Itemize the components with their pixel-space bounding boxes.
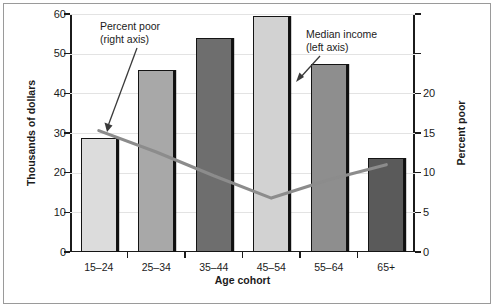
x-axis-tick-label: 65+ (358, 262, 416, 273)
y-axis-right-tick (415, 172, 421, 173)
y-axis-right-tick (415, 132, 421, 133)
x-axis-tick-label: 15–24 (70, 262, 128, 273)
gridline (70, 14, 415, 15)
x-axis-tick-label: 55–64 (300, 262, 358, 273)
x-axis-tick (357, 252, 358, 258)
y-axis-right-tick-label: 0 (423, 247, 463, 258)
x-axis-tick (299, 252, 300, 258)
y-axis-left-tick-label: 40 (26, 88, 66, 99)
x-axis-tick-label: 45–54 (243, 262, 301, 273)
y-axis-right-tick (415, 93, 421, 94)
gridline (70, 93, 415, 94)
y-axis-right-tick (415, 13, 421, 14)
bar (368, 158, 404, 252)
x-axis-tick (127, 252, 128, 258)
y-axis-left-tick-label: 10 (26, 207, 66, 218)
x-axis-title: Age cohort (70, 274, 415, 286)
annotation-median-income: Median income (left axis) (306, 28, 377, 53)
bar (311, 64, 347, 252)
x-axis-tick-label: 35–44 (185, 262, 243, 273)
y-axis-left-tick-label: 20 (26, 167, 66, 178)
gridline (70, 133, 415, 134)
bar (81, 138, 117, 252)
x-axis-tick-label: 25–34 (128, 262, 186, 273)
bar (196, 38, 232, 252)
y-axis-right-tick-label: 20 (423, 88, 463, 99)
bar (253, 16, 289, 252)
y-axis-right-tick-label: 10 (423, 167, 463, 178)
gridline (70, 173, 415, 174)
y-axis-left-tick-label: 30 (26, 128, 66, 139)
y-axis-left-tick-label: 50 (26, 48, 66, 59)
y-axis-right-tick-label: 5 (423, 207, 463, 218)
x-axis-tick (184, 252, 185, 258)
bar (138, 70, 174, 252)
y-axis-right-tick (415, 251, 421, 252)
y-axis-right-tick (415, 53, 421, 54)
annotation-percent-poor: Percent poor (right axis) (100, 20, 160, 45)
y-axis-left-tick-label: 0 (26, 247, 66, 258)
x-axis-tick (242, 252, 243, 258)
y-axis-right-tick (415, 212, 421, 213)
chart-figure: Thousands of dollars Percent poor Age co… (0, 0, 494, 307)
gridline (70, 54, 415, 55)
gridline (70, 212, 415, 213)
y-axis-left-tick-label: 60 (26, 9, 66, 20)
y-axis-right-tick-label: 15 (423, 128, 463, 139)
